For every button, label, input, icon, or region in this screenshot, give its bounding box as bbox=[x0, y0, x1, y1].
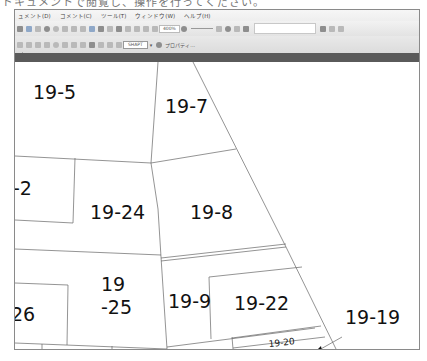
parcel-label: 19-9 bbox=[168, 290, 211, 312]
parcel-label: 19-8 bbox=[190, 201, 233, 223]
rectangle-tool-icon[interactable] bbox=[44, 42, 50, 48]
rotate-icon[interactable] bbox=[107, 26, 113, 32]
pdf-viewer-window: ュメント(D) コメント(C) ツール(T) ウィンドウ(W) ヘルプ(H) 4… bbox=[14, 9, 420, 350]
pencil-tool-icon[interactable] bbox=[26, 42, 32, 48]
polygon-tool-icon[interactable] bbox=[62, 42, 68, 48]
menu-document[interactable]: ュメント(D) bbox=[18, 12, 51, 20]
continuous-page-icon[interactable] bbox=[98, 26, 104, 32]
find-next-icon[interactable] bbox=[320, 26, 326, 32]
properties-button[interactable]: プロパティ... bbox=[165, 41, 195, 48]
search-input[interactable] bbox=[254, 23, 316, 34]
hand-tool-icon[interactable] bbox=[26, 26, 32, 32]
fit-page-icon[interactable] bbox=[143, 26, 149, 32]
loupe-icon[interactable] bbox=[125, 26, 131, 32]
zoom-plus-icon[interactable] bbox=[216, 26, 222, 32]
stamp-tool-icon[interactable] bbox=[89, 42, 95, 48]
parcel-label: 19-24 bbox=[90, 201, 145, 223]
style-dropdown[interactable]: SHAPT bbox=[123, 41, 148, 49]
parcel-label: 19 bbox=[101, 273, 125, 295]
leader-arrowhead-icon bbox=[315, 346, 322, 349]
polyline-tool-icon[interactable] bbox=[80, 42, 86, 48]
cloud-tool-icon[interactable] bbox=[71, 42, 77, 48]
style-dropdown-arrow-icon[interactable]: ▾ bbox=[150, 42, 153, 48]
parcel-label: 19-19 bbox=[345, 306, 400, 328]
parcel-label: 19-22 bbox=[234, 292, 289, 314]
main-toolbar: 400% bbox=[15, 21, 419, 36]
zoom-minus-icon[interactable] bbox=[181, 26, 187, 32]
prev-page-icon[interactable] bbox=[62, 26, 68, 32]
zoom-level-field[interactable]: 400% bbox=[159, 25, 180, 33]
parcel-label: 19-7 bbox=[165, 95, 208, 117]
menu-window[interactable]: ウィンドウ(W) bbox=[135, 12, 175, 20]
parcel-label: 26 bbox=[15, 303, 35, 325]
dropdown-arrow-icon[interactable] bbox=[80, 26, 86, 32]
adobe-online-icon[interactable] bbox=[329, 26, 335, 32]
fit-width-icon[interactable] bbox=[134, 26, 140, 32]
zoom-in-icon[interactable] bbox=[44, 26, 50, 32]
back-icon[interactable] bbox=[17, 26, 23, 32]
find-icon[interactable] bbox=[234, 26, 240, 32]
comment-toolbar: SHAPT ▾ プロパティ... bbox=[15, 36, 419, 53]
parcel-label: 19-5 bbox=[33, 81, 76, 103]
parcel-label: -2 bbox=[15, 177, 32, 199]
text-box-tool-icon[interactable] bbox=[107, 42, 113, 48]
help-icon[interactable] bbox=[225, 26, 231, 32]
menu-comment[interactable]: コメント(C) bbox=[60, 12, 92, 20]
parcel-labels: 19-5 19-7 -2 19-24 19-8 19 -25 26 19-9 1… bbox=[15, 81, 400, 349]
line-tool-icon[interactable] bbox=[35, 42, 41, 48]
menu-help[interactable]: ヘルプ(H) bbox=[184, 12, 210, 20]
parcel-label-small: 19-20 bbox=[268, 336, 295, 349]
page-text-strip: ドキュメントで閲覧し、操作を行ってください。 bbox=[0, 0, 427, 7]
parcel-map-view[interactable]: 19-5 19-7 -2 19-24 19-8 19 -25 26 19-9 1… bbox=[15, 62, 419, 349]
next-page-icon[interactable] bbox=[71, 26, 77, 32]
menu-tools[interactable]: ツール(T) bbox=[101, 12, 127, 20]
arrow-tool-icon[interactable] bbox=[98, 42, 104, 48]
parcel-map-canvas: 19-5 19-7 -2 19-24 19-8 19 -25 26 19-9 1… bbox=[15, 62, 419, 349]
clipped-caption: ドキュメントで閲覧し、操作を行ってください。 bbox=[2, 0, 265, 7]
select-tool-icon[interactable] bbox=[35, 26, 41, 32]
zoom-out-icon[interactable] bbox=[53, 26, 59, 32]
note-tool-icon[interactable] bbox=[17, 42, 23, 48]
magnify-icon[interactable] bbox=[116, 26, 122, 32]
parcel-label: -25 bbox=[101, 296, 132, 318]
single-page-icon[interactable] bbox=[89, 26, 95, 32]
document-header-bar bbox=[15, 53, 419, 62]
menu-bar: ュメント(D) コメント(C) ツール(T) ウィンドウ(W) ヘルプ(H) bbox=[15, 10, 419, 21]
search-options-icon[interactable] bbox=[243, 26, 249, 32]
zoom-slider[interactable] bbox=[191, 28, 213, 29]
properties-icon[interactable] bbox=[156, 42, 162, 48]
callout-tool-icon[interactable] bbox=[116, 42, 122, 48]
actual-size-icon[interactable] bbox=[152, 26, 158, 32]
oval-tool-icon[interactable] bbox=[53, 42, 59, 48]
extensions-icon[interactable] bbox=[338, 26, 344, 32]
